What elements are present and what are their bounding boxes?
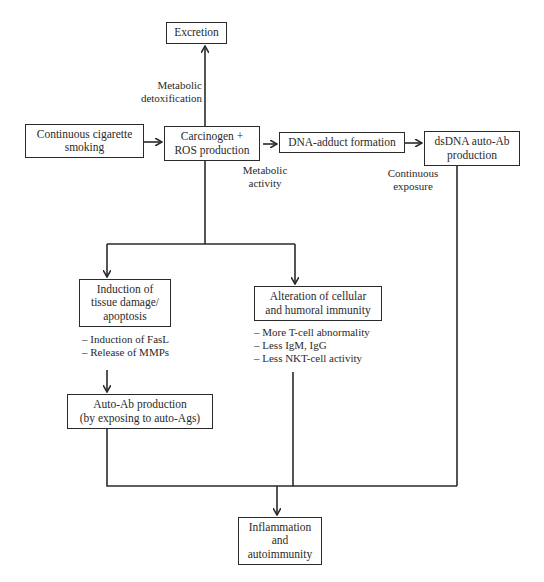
node-carcinogen-line-2: ROS production (174, 144, 249, 158)
node-excretion-line-1: Excretion (174, 26, 219, 40)
node-tissue-damage-line-2: tissue damage/ (91, 296, 159, 310)
edge-label-activity-line-2: activity (235, 177, 295, 190)
node-tissue-damage: Induction of tissue damage/ apoptosis (79, 279, 171, 327)
node-auto-ab: Auto-Ab production (by exposing to auto-… (67, 394, 213, 429)
edge-label-activity: Metabolic activity (235, 164, 295, 190)
node-dsdna-line-2: production (434, 149, 509, 163)
list-item: – Induction of FasL (82, 333, 169, 346)
line-auto-ab-down (107, 428, 457, 486)
node-dsdna: dsDNA auto-Ab production (424, 131, 520, 166)
node-smoking-line-2: smoking (37, 141, 133, 155)
node-inflammation-line-3: autoimmunity (248, 548, 313, 562)
node-inflammation-line-2: and (248, 534, 313, 548)
node-auto-ab-line-2: (by exposing to auto-Ags) (80, 412, 200, 426)
node-tissue-damage-line-3: apoptosis (91, 310, 159, 324)
edge-label-detox-line-2: detoxification (136, 92, 202, 105)
edge-label-detox-line-1: Metabolic (136, 79, 202, 92)
node-immunity-line-1: Alteration of cellular (265, 290, 370, 304)
edge-label-detox: Metabolic detoxification (136, 79, 202, 105)
node-dna-adduct: DNA-adduct formation (279, 132, 405, 153)
node-smoking: Continuous cigarette smoking (25, 124, 144, 158)
edge-label-exposure-line-1: Continuous (383, 167, 443, 180)
node-immunity: Alteration of cellular and humoral immun… (254, 286, 382, 321)
node-inflammation: Inflammation and autoimmunity (238, 517, 322, 565)
node-auto-ab-line-1: Auto-Ab production (80, 398, 200, 412)
node-immunity-line-2: and humoral immunity (265, 304, 370, 318)
node-carcinogen: Carcinogen + ROS production (164, 126, 260, 161)
edge-label-exposure: Continuous exposure (383, 167, 443, 193)
node-excretion: Excretion (166, 22, 227, 44)
edge-label-activity-line-1: Metabolic (235, 164, 295, 177)
node-dna-adduct-line-1: DNA-adduct formation (288, 136, 396, 150)
node-dsdna-line-1: dsDNA auto-Ab (434, 135, 509, 149)
node-smoking-line-1: Continuous cigarette (37, 128, 133, 142)
list-item: – Release of MMPs (82, 346, 169, 359)
node-tissue-damage-line-1: Induction of (91, 283, 159, 297)
list-item: – Less IgM, IgG (254, 339, 370, 352)
node-carcinogen-line-1: Carcinogen + (174, 130, 249, 144)
node-inflammation-line-1: Inflammation (248, 521, 313, 535)
list-item: – More T-cell abnormality (254, 326, 370, 339)
edge-label-exposure-line-2: exposure (383, 180, 443, 193)
list-tissue-damage: – Induction of FasL – Release of MMPs (82, 333, 169, 359)
list-immunity: – More T-cell abnormality – Less IgM, Ig… (254, 326, 370, 365)
list-item: – Less NKT-cell activity (254, 352, 370, 365)
